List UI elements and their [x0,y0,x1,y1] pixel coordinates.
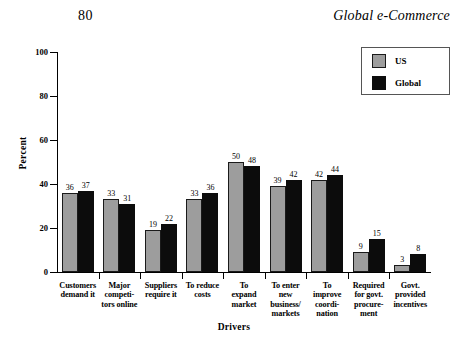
bar-chart-figure: Percent Drivers 020406080100 36373331192… [0,0,468,343]
bar-us: 33 [186,199,202,272]
bar-value-label: 44 [331,165,339,174]
bar-us: 3 [394,265,410,272]
bar-value-label: 33 [190,189,198,198]
bar-us: 50 [228,162,244,272]
chart-legend: USGlobal [361,47,450,95]
us-swatch [372,54,386,68]
bar-global: 44 [327,175,343,272]
bar-us: 33 [103,199,119,272]
bar-value-label: 36 [66,183,74,192]
x-category-label: Customersdemand it [55,281,101,300]
legend-label: US [395,56,407,66]
bar-global: 31 [119,204,135,272]
bar-us: 36 [62,193,78,272]
legend-item: Global [372,76,421,90]
bar-global: 37 [78,191,94,272]
x-tick [348,273,349,279]
x-category-label: Suppliersrequire it [138,281,184,300]
y-axis-line [57,52,58,273]
x-axis-line [57,272,431,273]
legend-label: Global [395,78,421,88]
bar-us: 19 [145,230,161,272]
y-tick [50,184,57,185]
x-axis-title: Drivers [0,322,468,332]
y-tick [50,228,57,229]
x-category-label: Govt.providedincentives [387,281,433,309]
x-category-label: Toimprovecoordi-nation [304,281,350,319]
bar-us: 39 [270,186,286,272]
x-tick [99,273,100,279]
bar-value-label: 39 [274,176,282,185]
bar-value-label: 33 [107,189,115,198]
x-tick [265,273,266,279]
y-tick [50,272,57,273]
bar-value-label: 22 [165,214,173,223]
bar-us: 9 [353,252,369,272]
legend-item: US [372,54,407,68]
bar-value-label: 8 [416,244,420,253]
global-swatch [372,76,386,90]
y-tick-label: 40 [24,179,48,189]
y-axis-title: Percent [18,118,28,188]
x-tick [140,273,141,279]
bar-us: 42 [311,180,327,272]
y-tick [50,96,57,97]
x-category-label: Requiredfor govt.procure-ment [346,281,392,319]
x-category-label: To reducecosts [180,281,226,300]
bar-global: 22 [161,224,177,272]
x-tick [306,273,307,279]
bar-global: 8 [410,254,426,272]
y-tick-label: 80 [24,91,48,101]
x-category-label: To enternewbusiness/markets [263,281,309,319]
bar-value-label: 19 [149,220,157,229]
bar-value-label: 15 [373,229,381,238]
bar-global: 15 [369,239,385,272]
bar-value-label: 9 [359,242,363,251]
y-tick [50,52,57,53]
bar-global: 42 [286,180,302,272]
bar-value-label: 31 [123,194,131,203]
bar-value-label: 50 [232,152,240,161]
bar-global: 36 [202,193,218,272]
x-category-label: Toexpandmarket [221,281,267,309]
y-tick [50,140,57,141]
bar-value-label: 48 [248,156,256,165]
x-category-label: Majorcompeti-tors online [97,281,143,309]
y-tick-label: 60 [24,135,48,145]
bar-global: 48 [244,166,260,272]
bar-value-label: 37 [82,181,90,190]
bar-value-label: 36 [206,183,214,192]
bar-value-label: 42 [290,170,298,179]
bar-value-label: 3 [400,255,404,264]
x-tick [389,273,390,279]
bar-value-label: 42 [315,170,323,179]
y-tick-label: 0 [24,267,48,277]
y-tick-label: 20 [24,223,48,233]
y-tick-label: 100 [24,47,48,57]
x-tick [223,273,224,279]
x-tick [182,273,183,279]
